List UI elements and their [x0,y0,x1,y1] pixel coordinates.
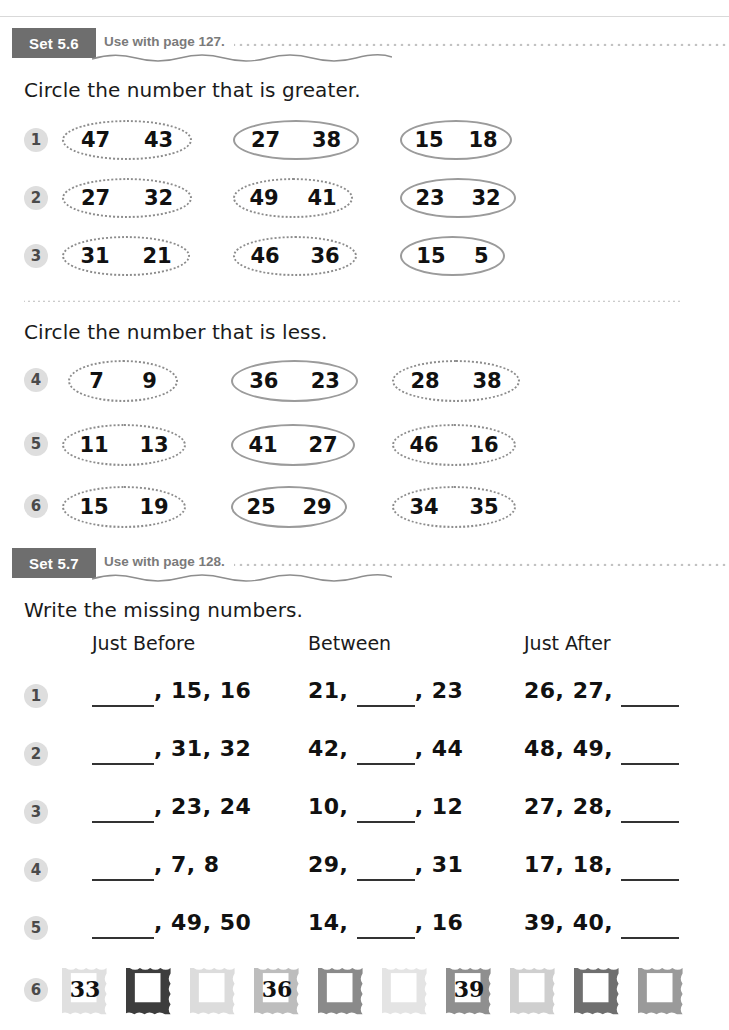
stamp-box-filled[interactable]: 33 [62,962,108,1016]
number-right: 35 [469,495,498,519]
number-left: 23 [415,186,444,210]
missing-number-cell-just-after[interactable]: 26, 27, [524,678,679,707]
number-right: 32 [471,186,500,210]
answer-oval-5-2[interactable]: 41 27 [231,424,355,466]
answer-blank[interactable] [92,796,154,823]
stamp-box-blank[interactable] [574,962,620,1016]
answer-blank[interactable] [92,680,154,707]
answer-blank[interactable] [92,912,154,939]
missing-number-cell-just-before[interactable]: , 15, 16 [92,678,251,707]
number-left: 46 [250,244,279,268]
missing-number-cell-between[interactable]: 29, , 31 [308,852,463,881]
missing-number-cell-between[interactable]: 42, , 44 [308,736,463,765]
missing-number-cell-just-before[interactable]: , 49, 50 [92,910,251,939]
answer-blank[interactable] [621,738,679,765]
answer-oval-1-1[interactable]: 47 43 [62,120,192,160]
answer-blank[interactable] [621,796,679,823]
answer-blank[interactable] [621,854,679,881]
missing-number-cell-just-after[interactable]: 27, 28, [524,794,679,823]
number-right: 36 [310,244,339,268]
stamp-box-blank[interactable] [126,962,172,1016]
answer-oval-2-2[interactable]: 49 41 [233,178,353,218]
missing-number-cell-between[interactable]: 21, , 23 [308,678,463,707]
stamp-box-filled[interactable]: 39 [446,962,492,1016]
number-right: 38 [312,128,341,152]
cell-suffix: , 44 [415,736,464,761]
stamp-box-blank[interactable] [638,962,684,1016]
answer-oval-3-1[interactable]: 31 21 [62,236,190,276]
cell-prefix: 39, 40, [524,910,621,935]
problem-number-3: 3 [24,244,48,268]
answer-oval-3-2[interactable]: 46 36 [233,236,357,276]
stamp-box-blank[interactable] [318,962,364,1016]
cell-suffix: , 49, 50 [154,910,251,935]
cell-prefix: 14, [308,910,357,935]
stamp-box-filled[interactable]: 36 [254,962,300,1016]
stamp-frame-icon [126,962,172,1016]
cell-prefix: 29, [308,852,357,877]
header-wave-5-7 [92,572,392,584]
header-dot-rule-5-6 [234,43,729,46]
number-left: 34 [409,495,438,519]
missing-number-cell-just-after[interactable]: 48, 49, [524,736,679,765]
answer-oval-3-3[interactable]: 15 5 [400,236,505,276]
missing-number-cell-between[interactable]: 10, , 12 [308,794,463,823]
set-badge-5-6: Set 5.6 [12,28,96,58]
stamp-value: 36 [262,976,293,1002]
answer-blank[interactable] [357,912,415,939]
answer-blank[interactable] [357,680,415,707]
section-divider-dots [24,300,682,302]
number-left: 47 [81,128,110,152]
answer-oval-4-1[interactable]: 7 9 [68,360,178,402]
answer-oval-1-2[interactable]: 27 38 [233,120,359,160]
stamp-frame-icon [318,962,364,1016]
number-right: 16 [469,433,498,457]
answer-oval-5-3[interactable]: 46 16 [392,424,516,466]
answer-oval-6-2[interactable]: 25 29 [231,486,347,528]
stamp-box-blank[interactable] [510,962,556,1016]
stamp-box-blank[interactable] [190,962,236,1016]
problem-number-1: 1 [24,128,48,152]
number-right: 23 [311,369,340,393]
answer-oval-5-1[interactable]: 11 13 [62,424,186,466]
stamp-box-blank[interactable] [382,962,428,1016]
missing-number-cell-just-after[interactable]: 39, 40, [524,910,679,939]
answer-oval-6-3[interactable]: 34 35 [392,486,516,528]
set-badge-5-7: Set 5.7 [12,548,96,578]
cell-suffix: , 31, 32 [154,736,251,761]
cell-suffix: , 12 [415,794,464,819]
answer-oval-2-1[interactable]: 27 32 [62,178,192,218]
missing-number-cell-just-before[interactable]: , 23, 24 [92,794,251,823]
answer-blank[interactable] [357,738,415,765]
number-right: 38 [472,369,501,393]
missing-number-cell-just-before[interactable]: , 7, 8 [92,852,220,881]
answer-blank[interactable] [357,854,415,881]
answer-blank[interactable] [621,912,679,939]
answer-oval-4-3[interactable]: 28 38 [392,360,520,402]
problem-number-5: 5 [24,432,48,456]
answer-oval-2-3[interactable]: 23 32 [400,178,516,218]
cell-prefix: 21, [308,678,357,703]
answer-blank[interactable] [92,738,154,765]
instruction-circle-less: Circle the number that is less. [24,320,328,344]
cell-suffix: , 31 [415,852,464,877]
column-header-just-after: Just After [524,632,611,654]
answer-oval-1-3[interactable]: 15 18 [400,120,512,160]
number-right: 29 [302,495,331,519]
missing-row-number: 1 [24,684,48,708]
missing-number-cell-just-after[interactable]: 17, 18, [524,852,679,881]
stamp-frame-icon [638,962,684,1016]
number-left: 15 [414,128,443,152]
missing-number-cell-between[interactable]: 14, , 16 [308,910,463,939]
missing-row-number: 4 [24,858,48,882]
number-left: 11 [79,433,108,457]
answer-blank[interactable] [621,680,679,707]
answer-blank[interactable] [92,854,154,881]
answer-oval-6-1[interactable]: 15 19 [62,486,186,528]
answer-oval-4-2[interactable]: 36 23 [231,360,358,402]
number-left: 25 [246,495,275,519]
answer-blank[interactable] [357,796,415,823]
number-left: 15 [79,495,108,519]
missing-number-cell-just-before[interactable]: , 31, 32 [92,736,251,765]
worksheet-page: Set 5.6 Use with page 127. Circle the nu… [0,0,729,1030]
